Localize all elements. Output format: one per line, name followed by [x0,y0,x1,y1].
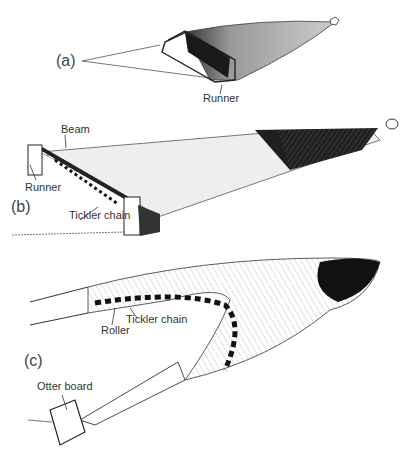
roller-label: Roller [101,324,130,336]
panel-c-otter-trawl [28,258,380,445]
runner-label-b: Runner [25,181,61,193]
otter-board-label: Otter board [37,380,93,392]
panel-a-sledge-trawl [82,17,339,94]
beam-label: Beam [61,123,90,135]
tickler-chain-label-b: Tickler chain [69,209,130,221]
runner-label-a: Runner [203,92,239,104]
panel-a-label: (a) [56,52,76,70]
panel-c-label: (c) [24,352,43,370]
panel-b-label: (b) [11,198,31,216]
tickler-chain-label-c: Tickler chain [126,313,187,325]
